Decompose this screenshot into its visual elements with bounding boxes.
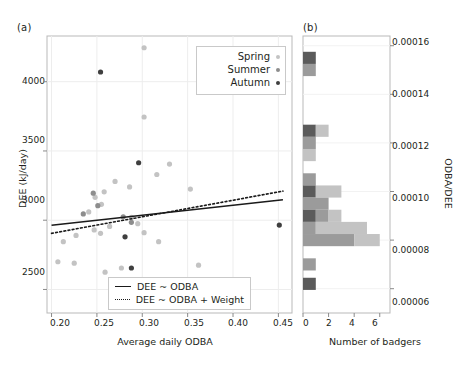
panel-a-ytick-3500: 3500 <box>22 135 45 145</box>
legend-item-summer[interactable]: Summer <box>197 63 285 76</box>
legend-item-dee-odba[interactable]: DEE ~ ODBA <box>109 280 250 293</box>
panel-b-xtick-4: 4 <box>349 318 355 328</box>
panel-a-xtick-035: 0.35 <box>184 318 204 328</box>
panel-a-xtick-025: 0.25 <box>94 318 114 328</box>
panel-b-y-axis-title: ODBA/DEE <box>443 139 454 229</box>
legend-label-spring: Spring <box>238 50 270 63</box>
legend-marker-autumn-icon <box>276 81 280 85</box>
panel-b-ytick-000006: 0.00006 <box>392 297 429 307</box>
panel-a-xtick-020: 0.20 <box>50 318 70 328</box>
legend-item-dee-odba-weight[interactable]: DEE ~ ODBA + Weight <box>109 293 250 306</box>
panel-b-ytick-000010: 0.00010 <box>392 193 429 203</box>
panel-b-ytick-000008: 0.00008 <box>392 245 429 255</box>
panel-a-ytick-2500: 2500 <box>22 267 45 277</box>
season-legend: Spring Summer Autumn <box>196 46 286 95</box>
model-legend: DEE ~ ODBA DEE ~ ODBA + Weight <box>108 277 251 310</box>
panel-a-xtick-045: 0.45 <box>273 318 293 328</box>
legend-item-autumn[interactable]: Autumn <box>197 76 285 89</box>
legend-label-dee-odba-weight: DEE ~ ODBA + Weight <box>136 293 244 306</box>
solid-line-key-icon <box>115 286 131 287</box>
panel-a-y-axis-title: DEE (kJ/day) <box>17 134 28 224</box>
legend-label-autumn: Autumn <box>230 76 270 89</box>
panel-a-x-axis-title: Average daily ODBA <box>85 336 245 347</box>
panel-a-ytick-4000: 4000 <box>22 76 45 86</box>
panel-a-xtick-030: 0.30 <box>139 318 159 328</box>
legend-marker-summer-icon <box>276 68 280 72</box>
panel-b-xtick-0: 0 <box>303 318 309 328</box>
panel-b-ytick-000014: 0.00014 <box>392 89 429 99</box>
panel-b-ytick-000016: 0.00016 <box>392 37 429 47</box>
dotted-line-key-icon <box>115 299 130 300</box>
figure-root: (a) DEE (kJ/day) 2500 3000 3500 4000 0.2… <box>0 0 456 388</box>
panel-b-tag: (b) <box>303 22 318 33</box>
legend-label-dee-odba: DEE ~ ODBA <box>137 280 198 293</box>
panel-b-xtick-2: 2 <box>326 318 332 328</box>
panel-b-x-axis-title: Number of badgers <box>290 336 456 347</box>
panel-b-ytick-000012: 0.00012 <box>392 141 429 151</box>
panel-b-xtick-6: 6 <box>372 318 378 328</box>
panel-a-xtick-040: 0.40 <box>228 318 248 328</box>
panel-a-ytick-3000: 3000 <box>22 195 45 205</box>
legend-item-spring[interactable]: Spring <box>197 50 285 63</box>
legend-label-summer: Summer <box>228 63 270 76</box>
panel-a-tag: (a) <box>17 22 32 33</box>
legend-marker-spring-icon <box>276 55 280 59</box>
